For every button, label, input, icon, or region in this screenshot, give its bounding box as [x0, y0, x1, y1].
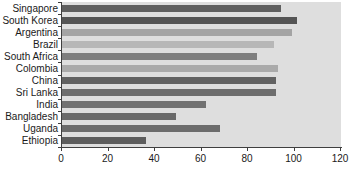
y-tick-mark — [58, 123, 61, 124]
x-axis-tick-label: 80 — [241, 153, 252, 164]
x-axis-tick-label: 0 — [58, 153, 64, 164]
bar-china — [62, 77, 276, 84]
x-axis-line — [61, 147, 342, 148]
x-axis-tick-label: 100 — [285, 153, 302, 164]
x-tick-mark — [108, 148, 109, 151]
bar-south-korea — [62, 17, 297, 24]
plot-area — [62, 2, 341, 147]
x-tick-mark — [201, 148, 202, 151]
category-axis-labels: SingaporeSouth KoreaArgentinaBrazilSouth… — [0, 2, 58, 147]
category-label: China — [0, 75, 58, 87]
bar-brazil — [62, 41, 274, 48]
x-tick-mark — [154, 148, 155, 151]
category-label: Singapore — [0, 2, 58, 14]
y-tick-mark — [58, 26, 61, 27]
category-label: Uganda — [0, 123, 58, 135]
bar-ethiopia — [62, 137, 146, 144]
bar-india — [62, 101, 206, 108]
x-axis-tick-label: 120 — [332, 153, 349, 164]
y-tick-mark — [58, 50, 61, 51]
category-label: Bangladesh — [0, 111, 58, 123]
y-tick-mark — [58, 99, 61, 100]
bar-bangladesh — [62, 113, 176, 120]
category-label: Argentina — [0, 26, 58, 38]
category-label: India — [0, 99, 58, 111]
y-tick-mark — [58, 111, 61, 112]
bar-colombia — [62, 65, 278, 72]
category-label: South Africa — [0, 50, 58, 62]
category-label: Ethiopia — [0, 135, 58, 147]
bar-south-africa — [62, 53, 257, 60]
y-axis-line — [61, 2, 62, 148]
y-tick-mark — [58, 135, 61, 136]
y-tick-mark — [58, 2, 61, 3]
y-tick-mark — [58, 14, 61, 15]
x-tick-mark — [340, 148, 341, 151]
x-tick-mark — [61, 148, 62, 151]
x-tick-mark — [247, 148, 248, 151]
category-label: Sri Lanka — [0, 87, 58, 99]
y-tick-mark — [58, 75, 61, 76]
y-tick-mark — [58, 62, 61, 63]
category-label: Colombia — [0, 62, 58, 74]
bar-singapore — [62, 5, 281, 12]
y-tick-mark — [58, 87, 61, 88]
bar-uganda — [62, 125, 220, 132]
y-tick-mark — [58, 38, 61, 39]
y-tick-mark — [58, 147, 61, 148]
category-label: Brazil — [0, 38, 58, 50]
x-axis-tick-label: 40 — [148, 153, 159, 164]
category-label: South Korea — [0, 14, 58, 26]
x-axis-tick-label: 20 — [102, 153, 113, 164]
bar-argentina — [62, 29, 292, 36]
bar-chart: SingaporeSouth KoreaArgentinaBrazilSouth… — [0, 0, 353, 169]
bar-sri-lanka — [62, 89, 276, 96]
x-axis-tick-label: 60 — [195, 153, 206, 164]
x-tick-mark — [294, 148, 295, 151]
